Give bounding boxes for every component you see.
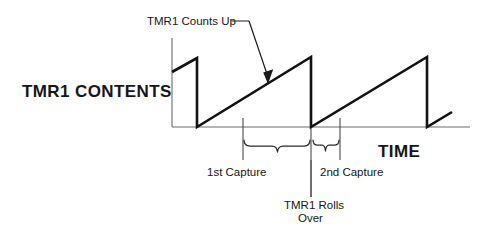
y-axis-title: TMR1 CONTENTS bbox=[22, 82, 172, 101]
diagram-canvas: TMR1 CONTENTS TIME TMR1 Counts Up 1st Ca… bbox=[0, 0, 489, 238]
counts-up-annotation: TMR1 Counts Up bbox=[147, 15, 236, 27]
timing-diagram-figure: TMR1 CONTENTS TIME TMR1 Counts Up 1st Ca… bbox=[0, 0, 489, 238]
rolls-over-annotation-line2: Over bbox=[298, 212, 323, 224]
brace-group bbox=[244, 140, 339, 152]
first-capture-label: 1st Capture bbox=[207, 166, 266, 178]
tmr1-waveform bbox=[172, 57, 452, 127]
brace-first-capture bbox=[244, 140, 310, 152]
second-capture-label: 2nd Capture bbox=[320, 166, 383, 178]
rolls-over-annotation-line1: TMR1 Rolls bbox=[284, 199, 344, 211]
counts-up-leader-group bbox=[232, 21, 273, 84]
brace-second-capture bbox=[313, 140, 339, 151]
x-axis-title: TIME bbox=[378, 142, 420, 161]
waveform-path bbox=[172, 57, 452, 127]
capture-markers-group bbox=[243, 118, 340, 197]
counts-up-leader-line bbox=[232, 21, 268, 77]
